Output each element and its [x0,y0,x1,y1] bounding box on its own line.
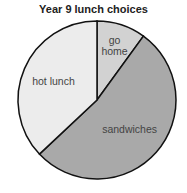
slice-label-hot-lunch: hot lunch [32,75,75,87]
slice-label-sandwiches: sandwiches [102,123,157,135]
pie-chart: gohomesandwicheshot lunch [0,0,187,193]
